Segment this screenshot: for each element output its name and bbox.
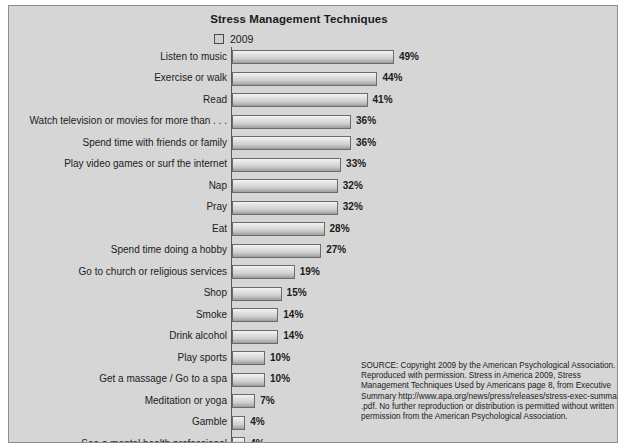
bar: [232, 93, 368, 107]
bar-value-label: 27%: [326, 244, 346, 255]
bar-row: Play video games or surf the internet33%: [9, 155, 618, 177]
bar-value-label: 19%: [300, 266, 320, 277]
chart-panel: Stress Management Techniques 2009 Listen…: [8, 5, 618, 443]
bar-row: Listen to music49%: [9, 47, 618, 69]
bar: [232, 244, 321, 258]
bar: [232, 330, 278, 344]
bar: [232, 437, 245, 443]
category-label: Meditation or yoga: [145, 395, 227, 406]
chart-legend: 2009: [214, 33, 253, 45]
category-label: Gamble: [192, 416, 227, 427]
bar-value-label: 28%: [330, 223, 350, 234]
bar-row: Nap32%: [9, 176, 618, 198]
category-label: Listen to music: [160, 51, 227, 62]
bar: [232, 416, 245, 430]
category-label: Go to church or religious services: [79, 266, 227, 277]
bar-value-label: 36%: [356, 115, 376, 126]
bar-row: Spend time with friends or family36%: [9, 133, 618, 155]
bar-value-label: 49%: [399, 51, 419, 62]
category-label: See a mental health professional: [81, 438, 227, 444]
bar-value-label: 36%: [356, 137, 376, 148]
source-line: permission from the American Psychologic…: [361, 412, 617, 422]
category-label: Exercise or walk: [154, 72, 227, 83]
bar: [232, 50, 394, 64]
bar-value-label: 4%: [250, 416, 264, 427]
bar: [232, 287, 282, 301]
bar-row: Shop15%: [9, 284, 618, 306]
bar-value-label: 14%: [283, 330, 303, 341]
category-label: Smoke: [196, 309, 227, 320]
bar-value-label: 4%: [250, 438, 264, 444]
bar: [232, 308, 278, 322]
bar: [232, 394, 255, 408]
bar: [232, 201, 338, 215]
category-label: Pray: [206, 201, 227, 212]
bar-value-label: 15%: [287, 287, 307, 298]
bar: [232, 158, 341, 172]
source-line: .pdf. No further reproduction or distrib…: [361, 402, 617, 412]
legend-label-2009: 2009: [230, 33, 253, 45]
bar: [232, 115, 351, 129]
bar-row: Pray32%: [9, 198, 618, 220]
bar-row: Read41%: [9, 90, 618, 112]
bar-row: Exercise or walk44%: [9, 69, 618, 91]
bar-row: Smoke14%: [9, 305, 618, 327]
category-label: Play sports: [178, 352, 227, 363]
source-citation: SOURCE: Copyright 2009 by the American P…: [361, 361, 617, 422]
bar-value-label: 44%: [382, 72, 402, 83]
bar-value-label: 33%: [346, 158, 366, 169]
category-label: Shop: [204, 287, 227, 298]
bar: [232, 179, 338, 193]
source-line: Reproduced with permission. Stress in Am…: [361, 371, 617, 381]
category-label: Nap: [209, 180, 227, 191]
bar-value-label: 14%: [283, 309, 303, 320]
bar-row: Go to church or religious services19%: [9, 262, 618, 284]
category-label: Watch television or movies for more than…: [30, 115, 227, 126]
bar-value-label: 10%: [270, 352, 290, 363]
chart-canvas: Stress Management Techniques 2009 Listen…: [0, 0, 626, 446]
bar-value-label: 41%: [373, 94, 393, 105]
bar-row: Eat28%: [9, 219, 618, 241]
bar-value-label: 32%: [343, 180, 363, 191]
chart-title: Stress Management Techniques: [9, 13, 589, 25]
category-label: Spend time doing a hobby: [111, 244, 227, 255]
bar: [232, 136, 351, 150]
bar-value-label: 7%: [260, 395, 274, 406]
bar-row: Drink alcohol14%: [9, 327, 618, 349]
bar: [232, 72, 377, 86]
bar-row: See a mental health professional4%: [9, 434, 618, 443]
bar-row: Watch television or movies for more than…: [9, 112, 618, 134]
bar-row: Spend time doing a hobby27%: [9, 241, 618, 263]
source-line: SOURCE: Copyright 2009 by the American P…: [361, 361, 617, 371]
category-label: Play video games or surf the internet: [64, 158, 227, 169]
source-line: Summary http://www.apa.org/news/press/re…: [361, 392, 617, 402]
category-label: Read: [203, 94, 227, 105]
source-line: Management Techniques Used by Americans …: [361, 381, 617, 391]
legend-swatch-2009-icon: [214, 34, 224, 44]
category-label: Drink alcohol: [169, 330, 227, 341]
bar: [232, 222, 325, 236]
category-label: Eat: [212, 223, 227, 234]
bar-value-label: 32%: [343, 201, 363, 212]
bar: [232, 351, 265, 365]
bar-value-label: 10%: [270, 373, 290, 384]
category-label: Spend time with friends or family: [82, 137, 227, 148]
bar: [232, 265, 295, 279]
bar: [232, 373, 265, 387]
category-label: Get a massage / Go to a spa: [99, 373, 227, 384]
